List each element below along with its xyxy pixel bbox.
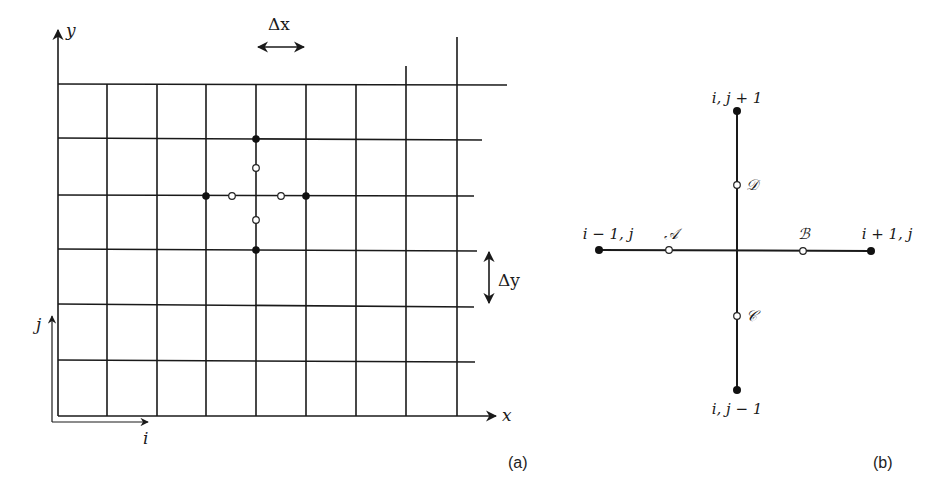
midpoint-a — [666, 247, 673, 254]
node-filled — [252, 135, 260, 143]
label-a: 𝒜 — [664, 225, 683, 243]
label-right-node: i + 1, j — [862, 225, 913, 243]
midpoint-open — [253, 217, 260, 224]
midpoint-d — [734, 182, 741, 189]
label-c: 𝒞 — [746, 307, 761, 325]
label-b: ℬ — [798, 225, 811, 243]
i-index-label: i — [143, 428, 148, 448]
node-left — [595, 246, 603, 254]
midpoint-open — [253, 165, 260, 172]
label-bottom-node: i, j − 1 — [712, 400, 763, 418]
node-filled — [202, 192, 210, 200]
midpoint-c — [734, 313, 741, 320]
midpoint-b — [800, 248, 807, 255]
figure: y x j i Δx Δy (a) i, j + 1 i, j − 1 i − … — [0, 0, 949, 500]
midpoint-open — [229, 193, 236, 200]
node-filled — [302, 192, 310, 200]
x-axis-label: x — [502, 405, 512, 425]
label-d: 𝒟 — [746, 176, 761, 194]
node-top — [733, 107, 741, 115]
label-top-node: i, j + 1 — [712, 89, 763, 107]
dy-label: Δy — [498, 270, 520, 290]
panel-a-grid — [58, 37, 507, 416]
node-right — [867, 247, 875, 255]
node-bottom — [733, 386, 741, 394]
panel-b-caption: (b) — [873, 454, 893, 471]
y-axis-label: y — [65, 20, 76, 40]
dx-label: Δx — [268, 14, 290, 34]
panel-a-caption: (a) — [508, 454, 528, 471]
j-index-label: j — [32, 314, 42, 334]
label-left-node: i − 1, j — [583, 225, 634, 243]
node-filled — [252, 246, 260, 254]
midpoint-open — [278, 193, 285, 200]
panel-b-stencil — [599, 111, 871, 390]
